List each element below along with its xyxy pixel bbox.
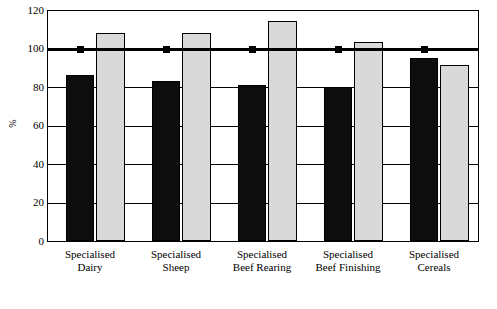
y-tick-label: 120 bbox=[4, 5, 44, 16]
reference-line bbox=[48, 48, 478, 51]
x-tick-label: Specialised Beef Finishing bbox=[305, 248, 391, 274]
x-tick-label: Specialised Beef Rearing bbox=[219, 248, 305, 274]
x-tick-label-line1: Specialised bbox=[305, 248, 391, 261]
x-tick-label: Specialised Dairy bbox=[47, 248, 133, 274]
bar-series2 bbox=[182, 33, 211, 241]
y-axis-title: % bbox=[7, 104, 18, 144]
x-tick-label-line1: Specialised bbox=[133, 248, 219, 261]
bar-series2 bbox=[354, 42, 383, 241]
bar-series1 bbox=[66, 75, 94, 241]
bar-series1 bbox=[324, 87, 352, 241]
y-tick-label: 80 bbox=[4, 82, 44, 93]
bar-chart: 120 100 80 60 40 20 0 % bbox=[0, 0, 497, 309]
y-tick-label: 100 bbox=[4, 43, 44, 54]
bar-group bbox=[48, 11, 134, 241]
x-tick-label-line2: Sheep bbox=[133, 261, 219, 274]
bar-series2 bbox=[96, 33, 125, 241]
bar-series1 bbox=[152, 81, 180, 241]
x-tick-label-line2: Beef Rearing bbox=[219, 261, 305, 274]
x-tick-label-line2: Beef Finishing bbox=[305, 261, 391, 274]
plot-area bbox=[47, 10, 479, 242]
x-tick-label-line2: Cereals bbox=[391, 261, 477, 274]
bar-group bbox=[134, 11, 220, 241]
x-tick-label-line1: Specialised bbox=[47, 248, 133, 261]
x-tick-label-line2: Dairy bbox=[47, 261, 133, 274]
reference-marker bbox=[249, 46, 256, 53]
reference-marker bbox=[421, 46, 428, 53]
y-tick-label: 0 bbox=[4, 236, 44, 247]
y-tick-label: 40 bbox=[4, 159, 44, 170]
x-tick-label-line1: Specialised bbox=[391, 248, 477, 261]
reference-marker bbox=[163, 46, 170, 53]
x-tick-label: Specialised Cereals bbox=[391, 248, 477, 274]
bar-group bbox=[306, 11, 392, 241]
bar-group bbox=[392, 11, 478, 241]
reference-marker bbox=[77, 46, 84, 53]
bar-series1 bbox=[238, 85, 266, 241]
bar-group bbox=[220, 11, 306, 241]
bar-series2 bbox=[268, 21, 297, 241]
x-tick-label: Specialised Sheep bbox=[133, 248, 219, 274]
x-axis-labels: Specialised Dairy Specialised Sheep Spec… bbox=[47, 248, 479, 294]
reference-marker bbox=[335, 46, 342, 53]
x-tick-label-line1: Specialised bbox=[219, 248, 305, 261]
bar-series2 bbox=[440, 65, 469, 241]
bar-series1 bbox=[410, 58, 438, 241]
y-tick-label: 20 bbox=[4, 197, 44, 208]
